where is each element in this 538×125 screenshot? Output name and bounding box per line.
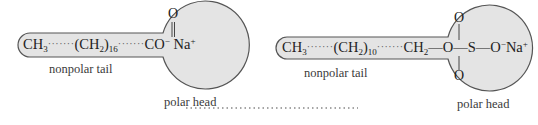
- sulfonyl-oxygen-bottom: O: [454, 68, 464, 84]
- head-label-1: polar head: [164, 95, 216, 110]
- tail-label-1: nonpolar tail: [49, 62, 113, 77]
- carbonyl-oxygen: O: [168, 6, 178, 22]
- tail-label-2: nonpolar tail: [304, 66, 368, 81]
- lauryl-sulfate-formula: CH3·······(CH2)10·······CH2—O—S—O−Na+: [282, 39, 528, 57]
- head-label-2: polar head: [457, 97, 509, 112]
- stearate-formula: CH3·······(CH2)16·······CO− Na+: [23, 36, 195, 54]
- sulfonyl-oxygen-top: O: [454, 10, 464, 26]
